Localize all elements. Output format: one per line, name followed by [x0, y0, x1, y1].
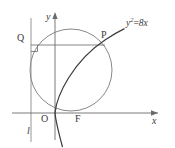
- label-directrix-l: l: [27, 126, 30, 136]
- geometry-figure: O F P Q l x y y2=8x: [0, 0, 175, 148]
- label-axis-x: x: [152, 116, 156, 126]
- label-axis-y: y: [46, 12, 50, 22]
- label-point-o: O: [41, 114, 48, 124]
- circle-shape: [30, 29, 112, 111]
- label-curve-equation: y2=8x: [126, 19, 148, 29]
- parabola-curve: [55, 29, 125, 147]
- label-point-p: P: [101, 30, 107, 40]
- label-point-q: Q: [17, 33, 24, 43]
- equation-rhs: 8x: [139, 18, 148, 28]
- y-axis-arrowhead: [52, 12, 57, 19]
- label-point-f: F: [75, 114, 81, 124]
